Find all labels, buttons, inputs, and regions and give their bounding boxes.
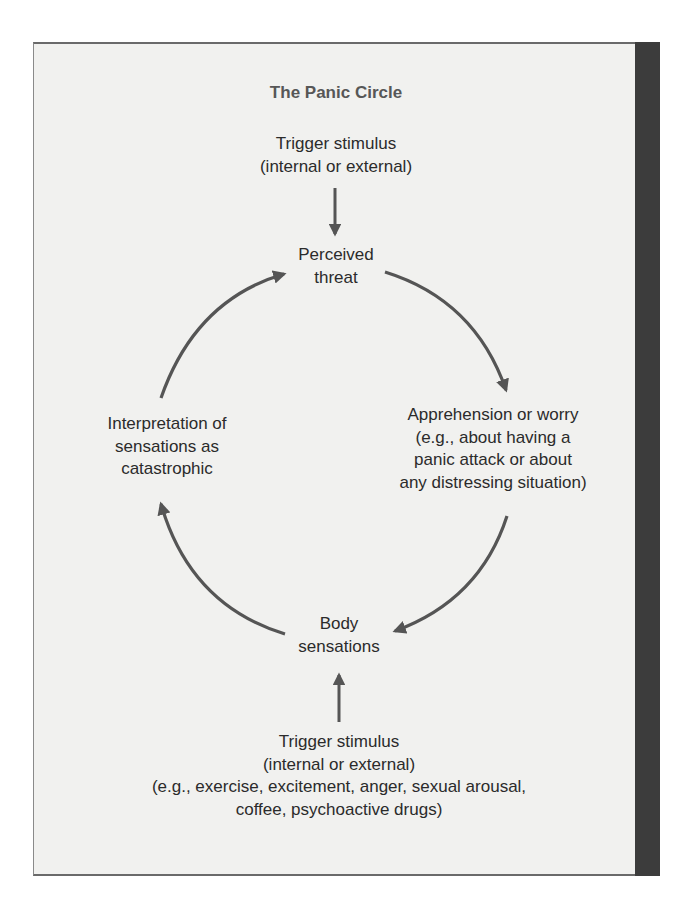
diagram-title: The Panic Circle: [236, 83, 436, 103]
node-line: Apprehension or worry: [358, 404, 628, 427]
node-line: panic attack or about: [358, 449, 628, 472]
node-line: threat: [236, 267, 436, 290]
node-line: sensations as: [57, 436, 277, 459]
node-trigger-top: Trigger stimulus (internal or external): [186, 133, 486, 178]
node-line: Perceived: [236, 244, 436, 267]
node-apprehension: Apprehension or worry (e.g., about havin…: [358, 404, 628, 494]
node-line: sensations: [239, 636, 439, 659]
node-line: Trigger stimulus: [69, 731, 609, 754]
node-body-sensations: Body sensations: [239, 613, 439, 658]
node-line: Trigger stimulus: [186, 133, 486, 156]
node-trigger-bottom: Trigger stimulus (internal or external) …: [69, 731, 609, 821]
node-line: any distressing situation): [358, 472, 628, 495]
page-edge-bar: [635, 42, 660, 876]
node-line: (internal or external): [186, 156, 486, 179]
node-line: coffee, psychoactive drugs): [69, 799, 609, 822]
node-line: (e.g., exercise, excitement, anger, sexu…: [69, 776, 609, 799]
node-line: (internal or external): [69, 754, 609, 777]
node-interpretation: Interpretation of sensations as catastro…: [57, 413, 277, 481]
node-line: (e.g., about having a: [358, 427, 628, 450]
node-line: Body: [239, 613, 439, 636]
node-line: catastrophic: [57, 458, 277, 481]
node-perceived-threat: Perceived threat: [236, 244, 436, 289]
node-line: Interpretation of: [57, 413, 277, 436]
